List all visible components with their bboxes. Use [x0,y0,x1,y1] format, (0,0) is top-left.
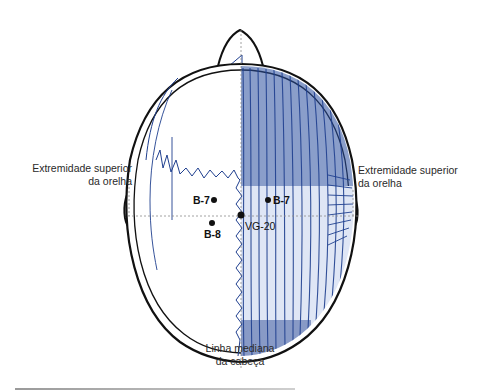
bottom-rule-divider [15,388,295,390]
point-vg20-label: VG-20 [245,220,275,232]
left-ear-label-line2: da orelha [27,175,132,188]
point-b7-left-dot [211,197,217,203]
right-ear-label: Extremidade superior da orelha [358,164,458,190]
right-ear-label-line2: da orelha [358,177,458,190]
right-ear-label-line1: Extremidade superior [358,164,458,177]
nose-outline [218,30,263,66]
point-b8-label: B-8 [204,228,221,240]
point-vg20-dot [238,212,245,219]
midline-label-line1: Linha mediana [195,342,285,355]
midline-label: Linha mediana da cabeça [195,342,285,368]
left-ear-label-line1: Extremidade superior [27,162,132,175]
midline-label-line2: da cabeça [195,355,285,368]
point-b7-right-label: B-7 [273,194,290,206]
muscle-fibers [241,66,361,360]
point-b7-left-label: B-7 [193,194,210,206]
head-top-view-illustration [0,0,488,391]
left-ear-label: Extremidade superior da orelha [27,162,132,188]
point-b8-dot [209,220,215,226]
point-b7-right-dot [265,197,271,203]
